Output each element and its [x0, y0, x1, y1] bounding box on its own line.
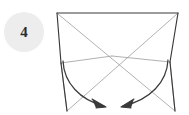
fold-arrow-left-head — [92, 99, 106, 108]
origami-figure-svg — [0, 0, 189, 115]
fold-arrow-right-head — [121, 99, 134, 108]
edge-right-upper — [170, 13, 178, 62]
crease-lines-group — [58, 14, 177, 111]
crease-horizontal-left — [61, 56, 112, 63]
diagram-canvas: 4 — [0, 0, 189, 115]
crease-horizontal-right — [112, 56, 170, 62]
edge-right-lower — [170, 62, 175, 111]
crease-diagonal-tl-br — [58, 14, 175, 111]
edge-left-upper — [57, 13, 61, 63]
origami-figure — [0, 0, 189, 115]
